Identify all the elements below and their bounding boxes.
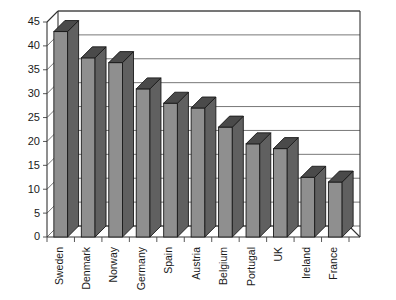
bar <box>328 171 353 237</box>
bar <box>109 52 134 237</box>
bar-side-face <box>68 21 79 237</box>
bar-front-face <box>109 63 123 237</box>
category-label: France <box>327 247 339 280</box>
chart-canvas: 051015202530354045 SwedenDenmarkNorwayGe… <box>0 0 396 300</box>
bar-front-face <box>54 32 68 237</box>
bar <box>219 116 244 237</box>
bar-front-face <box>81 58 95 237</box>
category-label: Sweden <box>53 247 65 285</box>
bar <box>81 47 106 237</box>
category-label: Denmark <box>80 246 92 289</box>
category-label: Spain <box>162 247 174 274</box>
bar-chart: 051015202530354045 SwedenDenmarkNorwayGe… <box>0 0 396 300</box>
y-axis-tick-label: 40 <box>28 39 40 51</box>
y-axis-tick-label: 10 <box>28 183 40 195</box>
bar <box>191 97 216 237</box>
category-label: Belgium <box>217 247 229 285</box>
category-label: Norway <box>107 246 119 282</box>
bar-front-face <box>274 149 288 237</box>
bar-side-face <box>150 78 161 237</box>
bar <box>274 138 299 237</box>
bar-front-face <box>219 127 233 237</box>
y-axis-tick-label: 15 <box>28 159 40 171</box>
bar <box>246 133 271 237</box>
bar-front-face <box>136 89 150 237</box>
y-axis-tick-label: 45 <box>28 15 40 27</box>
bar <box>164 92 189 237</box>
bar-side-face <box>232 116 243 237</box>
bar-front-face <box>164 103 178 237</box>
bar <box>301 166 326 237</box>
y-axis-tick-label: 30 <box>28 87 40 99</box>
bar-side-face <box>315 166 326 237</box>
category-label: Ireland <box>300 247 312 279</box>
bar-front-face <box>301 177 315 237</box>
bar-side-face <box>205 97 216 237</box>
category-label: Germany <box>135 246 147 290</box>
bar-side-face <box>287 138 298 237</box>
y-axis-tick-label: 5 <box>34 207 40 219</box>
bar-side-face <box>95 47 106 237</box>
y-axis-tick-label: 0 <box>34 230 40 242</box>
bar-front-face <box>246 144 260 237</box>
bar <box>54 21 79 237</box>
bar-side-face <box>177 92 188 237</box>
category-label: Austria <box>190 247 202 280</box>
y-axis-tick-label: 20 <box>28 135 40 147</box>
category-label: UK <box>272 247 284 262</box>
bar-front-face <box>191 108 205 237</box>
bar-front-face <box>328 182 342 237</box>
category-label: Portugal <box>245 247 257 286</box>
y-axis-tick-label: 35 <box>28 63 40 75</box>
bar-side-face <box>123 52 134 237</box>
y-axis-tick-label: 25 <box>28 111 40 123</box>
bar-side-face <box>260 133 271 237</box>
bar <box>136 78 161 237</box>
